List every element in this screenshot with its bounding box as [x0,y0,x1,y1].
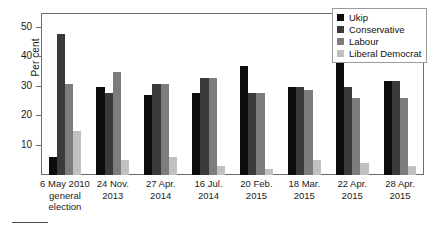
x-label-line1: 18 Mar. [288,178,320,189]
bar-group [185,13,233,175]
legend-item[interactable]: Conservative [337,24,421,35]
bar-group [280,13,328,175]
bar[interactable] [256,93,264,175]
legend-label: Labour [349,36,379,47]
bar[interactable] [296,87,304,175]
x-label-line1: 20 Feb. [240,178,272,189]
bar[interactable] [169,157,177,175]
x-axis-label: 28 Apr.2015 [367,178,433,201]
y-tick-label: 10 [0,139,32,150]
x-label-line1: 28 Apr. [385,178,415,189]
bar[interactable] [161,84,169,175]
y-tick-label: 20 [0,109,32,120]
x-label-line1: 27 Apr. [146,178,176,189]
chart-figure: Per cent 1020304050 6 May 2010general el… [0,0,438,229]
legend-swatch-icon [337,26,344,33]
legend-label: Ukip [349,12,368,23]
x-label-line1: 16 Jul. [195,178,223,189]
y-tick-label: 40 [0,50,32,61]
bar[interactable] [336,60,344,175]
legend-item[interactable]: Ukip [337,12,421,23]
bar[interactable] [152,84,160,175]
bar[interactable] [200,78,208,175]
bar[interactable] [313,160,321,175]
legend-label: Conservative [349,24,404,35]
legend-item[interactable]: Liberal Democrat [337,48,421,59]
legend-swatch-icon [337,14,344,21]
bar[interactable] [192,93,200,175]
x-label-line1: 24 Nov. [97,178,129,189]
bar[interactable] [344,87,352,175]
bar[interactable] [400,98,408,175]
bar[interactable] [240,66,248,175]
bar[interactable] [65,84,73,175]
bar[interactable] [105,93,113,175]
x-axis-labels: 6 May 2010general election24 Nov.201327 … [41,178,424,210]
bar[interactable] [384,81,392,175]
bar[interactable] [248,93,256,175]
legend-swatch-icon [337,38,344,45]
y-tick-label: 50 [0,21,32,32]
bar-group [89,13,137,175]
bar[interactable] [121,160,129,175]
bar[interactable] [352,98,360,175]
bar[interactable] [408,166,416,175]
bar[interactable] [304,90,312,175]
bar-group [233,13,281,175]
bar-group [41,13,89,175]
legend-label: Liberal Democrat [349,48,421,59]
chart-legend: UkipConservativeLabourLiberal Democrat [332,8,427,63]
y-tick-label: 30 [0,80,32,91]
x-label-line1: 22 Apr. [337,178,367,189]
bar-group [137,13,185,175]
bar[interactable] [113,72,121,175]
bar[interactable] [265,169,273,175]
x-label-line2: 2015 [367,190,433,202]
bar[interactable] [73,131,81,175]
bar[interactable] [49,157,57,175]
bar[interactable] [392,81,400,175]
bar[interactable] [209,78,217,175]
bar[interactable] [288,87,296,175]
bar[interactable] [144,95,152,175]
bar[interactable] [217,166,225,175]
legend-swatch-icon [337,50,344,57]
bar[interactable] [57,34,65,175]
bar[interactable] [96,87,104,175]
legend-item[interactable]: Labour [337,36,421,47]
bar[interactable] [360,163,368,175]
caption-divider [12,222,48,223]
